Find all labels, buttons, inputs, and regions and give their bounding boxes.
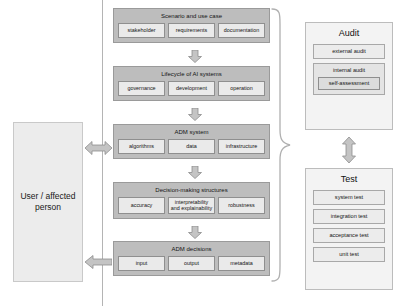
flow-block-title: ADM system [118, 128, 265, 136]
flow-block-title: Decision-making structures [118, 186, 265, 194]
user-adm-system-double-arrow [85, 140, 112, 156]
flow-item-robustness: robustness [218, 197, 265, 214]
flow-group-curly-brace [270, 8, 292, 282]
flow-item-governance: governance [118, 81, 165, 96]
flow-arrow-lifecycle-to-adm-system [188, 107, 202, 120]
flow-arrow-adm-system-to-decision-making [188, 165, 202, 178]
audit-item-self-assessment: self-assessment [318, 77, 380, 90]
adm-decisions-to-user-arrow [85, 254, 112, 270]
flow-item-interpretability-and-explainability: interpretability and explainability [168, 197, 215, 214]
test-item-system-test: system test [313, 190, 385, 205]
flow-block-adm-system: ADM system algorithms data infrastructur… [113, 124, 270, 159]
flow-item-development: development [168, 81, 215, 96]
flow-item-input: input [118, 256, 165, 271]
flow-arrow-decision-making-to-adm-decisions [188, 225, 202, 238]
flow-item-documentation: documentation [218, 23, 265, 38]
flow-block-title: Scenario and use case [118, 12, 265, 20]
flow-item-stakeholder: stakeholder [118, 23, 165, 38]
flow-block-items: input output metadata [118, 256, 265, 271]
test-item-integration-test: integration test [313, 209, 385, 224]
flow-item-accuracy: accuracy [118, 197, 165, 214]
flow-block-decision-making-structures: Decision-making structures accuracy inte… [113, 182, 270, 219]
flow-item-operation: operation [218, 81, 265, 96]
audit-item-internal-audit: internal audit self-assessment [313, 63, 385, 95]
flow-block-title: Lifecycle of AI systems [118, 70, 265, 78]
user-affected-person-label: User / affected person [14, 191, 82, 213]
user-affected-person-box: User / affected person [13, 122, 83, 282]
flow-arrow-scenario-to-lifecycle [188, 49, 202, 62]
flow-block-title: ADM decisions [118, 245, 265, 253]
flow-item-metadata: metadata [218, 256, 265, 271]
flow-block-items: algorithms data infrastructure [118, 139, 265, 154]
diagram-canvas: User / affected person Scenario and use … [0, 0, 404, 306]
test-panel: Test system test integration test accept… [305, 168, 393, 290]
flow-block-lifecycle-of-ai-systems: Lifecycle of AI systems governance devel… [113, 66, 270, 101]
flow-item-algorithms: algorithms [118, 139, 165, 154]
audit-panel: Audit external audit internal audit self… [305, 22, 393, 130]
test-item-unit-test: unit test [313, 247, 385, 262]
flow-block-adm-decisions: ADM decisions input output metadata [113, 241, 270, 276]
test-item-acceptance-test: acceptance test [313, 228, 385, 243]
flow-item-output: output [168, 256, 215, 271]
flow-block-items: stakeholder requirements documentation [118, 23, 265, 38]
flow-item-data: data [168, 139, 215, 154]
flow-item-requirements: requirements [168, 23, 215, 38]
flow-item-infrastructure: infrastructure [218, 139, 265, 154]
audit-test-double-arrow [341, 137, 357, 163]
audit-internal-audit-label: internal audit [318, 67, 380, 74]
flow-block-items: accuracy interpretability and explainabi… [118, 197, 265, 214]
audit-panel-title: Audit [313, 28, 385, 39]
audit-item-external-audit: external audit [313, 44, 385, 59]
test-panel-title: Test [313, 174, 385, 185]
flow-block-items: governance development operation [118, 81, 265, 96]
flow-block-scenario-and-use-case: Scenario and use case stakeholder requir… [113, 8, 270, 43]
